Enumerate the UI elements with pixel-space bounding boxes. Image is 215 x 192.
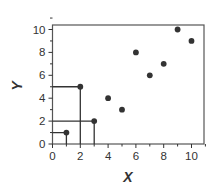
data-point (91, 118, 97, 124)
y-tick-label: 2 (39, 115, 45, 127)
data-point (175, 27, 181, 33)
plot-frame (53, 25, 205, 144)
data-point (105, 95, 111, 101)
minor-ticks (50, 18, 205, 146)
data-point (77, 84, 83, 90)
plot-border (53, 25, 205, 144)
drop-lines (53, 87, 95, 144)
x-tick-labels: 0246810 (49, 150, 198, 162)
scatter-chart: 0246810 0246810 X Y (0, 0, 215, 192)
x-tick-label: 10 (185, 150, 198, 162)
x-axis-label: X (122, 169, 134, 185)
y-axis-label: Y (9, 80, 25, 91)
data-point (189, 38, 195, 44)
y-tick-label: 4 (39, 92, 46, 104)
data-points (64, 27, 195, 136)
y-tick-label: 8 (39, 46, 45, 58)
major-ticks (49, 30, 192, 149)
y-tick-labels: 0246810 (33, 24, 46, 151)
data-point (64, 130, 70, 136)
x-tick-label: 6 (133, 150, 139, 162)
data-point (119, 107, 125, 113)
data-point (147, 72, 153, 78)
x-tick-label: 2 (77, 150, 83, 162)
x-tick-label: 0 (49, 150, 55, 162)
x-tick-label: 8 (160, 150, 166, 162)
x-tick-label: 4 (105, 150, 112, 162)
data-point (133, 50, 139, 56)
y-tick-label: 6 (39, 69, 45, 81)
data-point (161, 61, 167, 67)
y-tick-label: 0 (39, 138, 45, 150)
y-tick-label: 10 (33, 24, 46, 36)
